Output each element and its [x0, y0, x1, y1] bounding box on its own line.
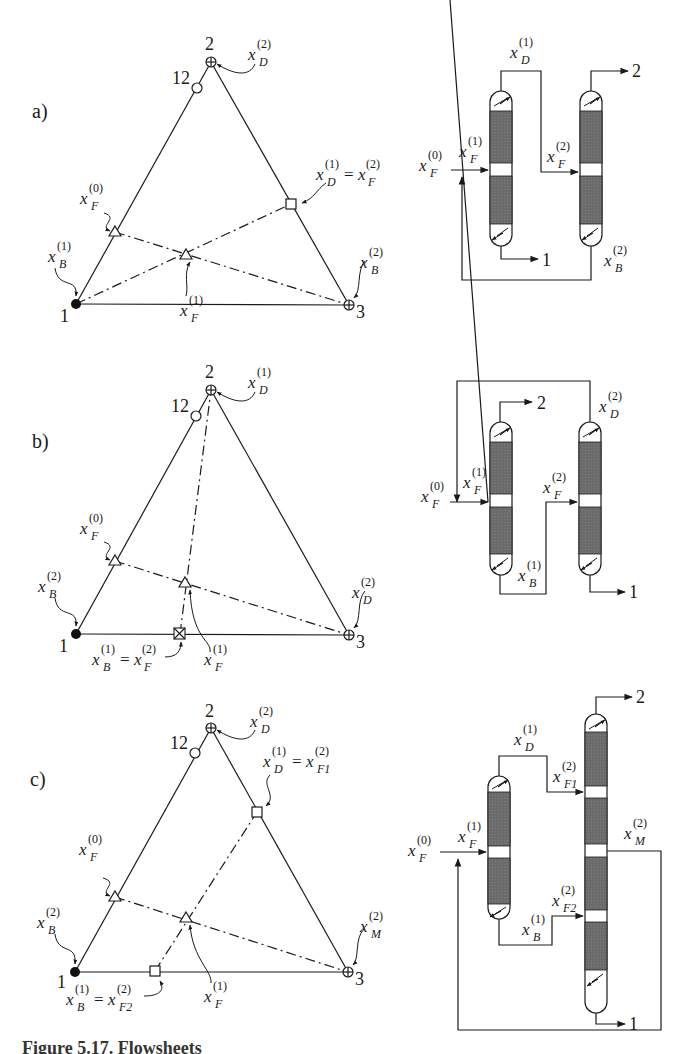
svg-text:(1): (1) — [519, 35, 533, 49]
svg-text:D: D — [326, 175, 336, 189]
label-xD2-b: x (2) D — [351, 575, 375, 607]
svg-text:(1): (1) — [468, 134, 482, 148]
column-1-c — [488, 776, 510, 919]
svg-text:(1): (1) — [75, 982, 89, 996]
svg-text:(2): (2) — [552, 470, 566, 484]
svg-text:(1): (1) — [472, 465, 486, 479]
svg-text:x: x — [521, 920, 530, 939]
label-xD1-flow-a: x (1) D — [509, 35, 533, 67]
svg-text:F2: F2 — [118, 1000, 132, 1014]
svg-text:x: x — [305, 752, 314, 771]
svg-text:(2): (2) — [633, 816, 647, 830]
column-1-b — [490, 422, 512, 575]
figure-canvas: a) 2 12 1 3 — [0, 0, 688, 1054]
azeotrope-12-marker-a — [192, 83, 202, 93]
label-xD2-flow-b: x (2) D — [598, 389, 622, 421]
label-xB1-eq-xF22-c: x (1) B = x (2) F2 — [65, 982, 132, 1014]
vertex-3-marker-b — [344, 630, 354, 640]
vertex-1-label-c: 1 — [57, 972, 66, 992]
svg-text:B: B — [529, 576, 537, 590]
label-xB2-b: x (2) B — [37, 569, 61, 601]
product-1-label-c: 1 — [629, 1014, 638, 1034]
svg-text:(2): (2) — [608, 389, 622, 403]
svg-text:x: x — [249, 712, 258, 731]
label-xB2-flow-a: x (2) B — [603, 243, 627, 275]
svg-text:x: x — [359, 917, 368, 936]
svg-text:(2): (2) — [562, 759, 576, 773]
label-xF0-b: x (0) F — [79, 511, 103, 543]
label-xF0-a: x (0) F — [79, 181, 103, 213]
svg-text:F: F — [190, 311, 199, 325]
label-xB1-a: x (1) B — [47, 239, 71, 271]
svg-text:(2): (2) — [369, 245, 383, 259]
svg-text:B: B — [371, 263, 379, 277]
svg-text:(2): (2) — [46, 905, 60, 919]
svg-text:F: F — [214, 997, 223, 1011]
svg-text:(2): (2) — [259, 704, 273, 718]
svg-text:B: B — [48, 923, 56, 937]
svg-text:(1): (1) — [213, 642, 227, 656]
label-xM2-c: x (2) M — [359, 909, 383, 941]
svg-text:x: x — [133, 650, 142, 669]
svg-text:(0): (0) — [417, 833, 431, 847]
svg-text:x: x — [262, 752, 271, 771]
svg-text:(2): (2) — [561, 883, 575, 897]
svg-text:F: F — [418, 851, 427, 865]
svg-text:F: F — [469, 152, 478, 166]
svg-text:x: x — [247, 45, 256, 64]
vertex-2-marker-b — [206, 385, 216, 395]
svg-text:D: D — [260, 722, 270, 736]
vertex-3-label-a: 3 — [356, 302, 365, 322]
svg-text:(2): (2) — [117, 982, 131, 996]
svg-text:x: x — [36, 913, 45, 932]
svg-text:M: M — [370, 927, 382, 941]
svg-text:x: x — [78, 840, 87, 859]
label-xF1-a: x (1) F — [179, 293, 203, 325]
svg-text:(1): (1) — [101, 642, 115, 656]
svg-text:D: D — [524, 740, 534, 754]
svg-text:(0): (0) — [428, 148, 442, 162]
azeotrope-12-marker-b — [191, 411, 201, 421]
svg-text:x: x — [107, 990, 116, 1009]
svg-text:x: x — [513, 730, 522, 749]
svg-text:x: x — [179, 301, 188, 320]
label-xF2-flow-a: x (2) F — [546, 139, 570, 171]
svg-text:x: x — [418, 156, 427, 175]
svg-text:(2): (2) — [142, 642, 156, 656]
svg-text:x: x — [91, 650, 100, 669]
svg-text:D: D — [520, 53, 530, 67]
svg-text:=: = — [292, 752, 302, 771]
svg-text:F: F — [468, 837, 477, 851]
svg-text:(1): (1) — [523, 722, 537, 736]
label-xD1-flow-c: x (1) D — [513, 722, 537, 754]
svg-text:x: x — [552, 767, 561, 786]
svg-text:(2): (2) — [47, 569, 61, 583]
panel-tag-c: c) — [30, 768, 46, 791]
svg-text:x: x — [357, 165, 366, 184]
product-2-label-a: 2 — [632, 61, 641, 81]
panel-a: a) 2 12 1 3 — [32, 34, 641, 326]
svg-text:F: F — [90, 529, 99, 543]
svg-text:x: x — [551, 891, 560, 910]
svg-text:D: D — [362, 593, 372, 607]
svg-text:F: F — [90, 199, 99, 213]
vertex-2-label-a: 2 — [205, 34, 214, 54]
svg-text:(1): (1) — [57, 239, 71, 253]
label-xB2-a: x (2) B — [359, 245, 383, 277]
svg-text:D: D — [273, 762, 283, 776]
svg-text:B: B — [49, 587, 57, 601]
product-2-label-c: 2 — [636, 687, 645, 707]
svg-text:(1): (1) — [325, 157, 339, 171]
svg-text:x: x — [420, 487, 429, 506]
label-xF22-flow-c: x (2) F2 — [551, 883, 576, 915]
label-xF1-flow-c: x (1) F — [457, 819, 481, 851]
svg-text:x: x — [79, 189, 88, 208]
label-xF1-c: x (1) F — [203, 979, 227, 1011]
svg-text:F: F — [473, 483, 482, 497]
label-xD1-eq-xF12-c: x (1) D = x (2) F1 — [262, 744, 330, 776]
svg-text:(2): (2) — [366, 157, 380, 171]
column-2-b — [579, 422, 601, 575]
label-xF0-flow-b: x (0) F — [420, 479, 444, 511]
svg-text:(2): (2) — [257, 37, 271, 51]
svg-text:x: x — [517, 566, 526, 585]
